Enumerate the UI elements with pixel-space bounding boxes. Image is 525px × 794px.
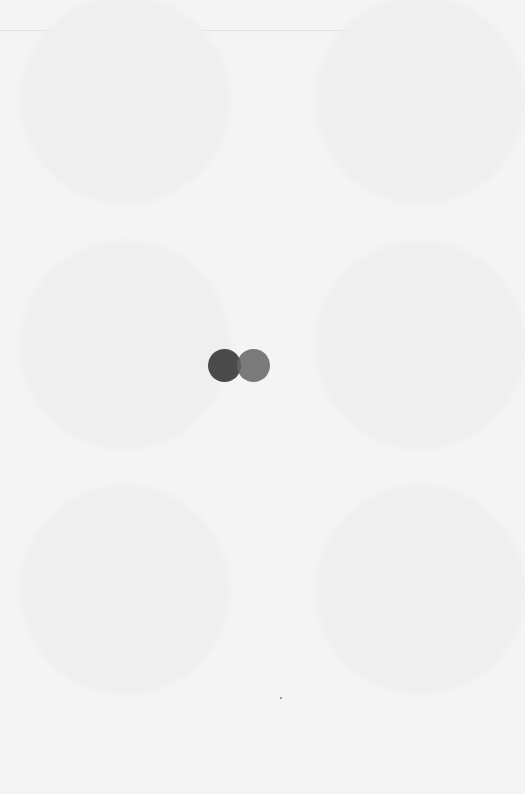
placeholder-thumbnail-4 — [315, 240, 525, 450]
placeholder-thumbnail-5 — [20, 485, 230, 695]
spinner-dot-icon — [237, 349, 270, 382]
placeholder-thumbnail-3 — [20, 240, 230, 450]
placeholder-thumbnail-6 — [315, 485, 525, 695]
placeholder-thumbnail-1 — [20, 0, 230, 205]
artifact-dot — [280, 697, 282, 699]
placeholder-thumbnail-2 — [315, 0, 525, 205]
loading-spinner — [208, 349, 270, 383]
